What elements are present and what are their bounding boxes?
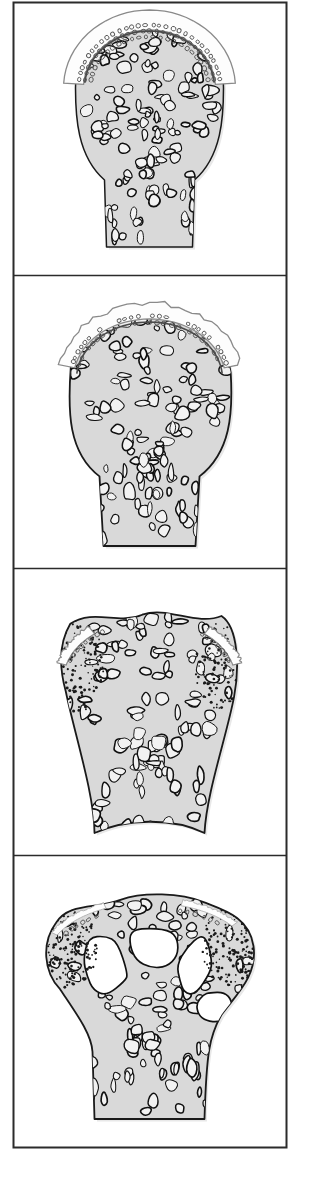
trabecula <box>140 44 148 50</box>
stipple-dot <box>68 689 71 692</box>
stipple-dot <box>96 948 98 950</box>
stipple-dot <box>236 965 238 967</box>
stipple-dot <box>68 981 70 983</box>
trabecula <box>102 782 110 798</box>
stipple-dot <box>62 972 64 974</box>
stipple-dot <box>205 947 207 949</box>
stipple-dot <box>242 966 244 968</box>
stipple-dot <box>98 639 100 641</box>
stipple-dot <box>241 956 244 959</box>
trabecula <box>194 397 209 402</box>
stipple-dot <box>211 673 214 676</box>
trabecula <box>191 723 201 736</box>
stipple-dot <box>206 953 208 955</box>
trabecula <box>104 87 115 93</box>
stipple-dot <box>58 962 61 965</box>
stipple-dot <box>244 954 247 957</box>
stipple-dot <box>244 971 247 974</box>
stipple-dot <box>74 941 77 944</box>
trabecula <box>85 659 98 664</box>
stipple-dot <box>66 686 69 689</box>
stipple-dot <box>231 928 233 930</box>
stipple-dot <box>52 946 55 949</box>
stipple-dot <box>99 680 102 683</box>
stipple-dot <box>210 690 213 693</box>
stipple-dot <box>76 626 79 629</box>
stipple-dot <box>80 664 82 666</box>
stipple-dot <box>94 952 96 954</box>
stipple-dot <box>49 961 51 963</box>
stipple-dot <box>212 956 214 958</box>
stipple-dot <box>225 911 227 913</box>
trabecula <box>153 990 166 1000</box>
stipple-dot <box>89 659 91 661</box>
trabecula <box>160 1068 164 1078</box>
trabecula <box>92 131 103 139</box>
stipple-dot <box>248 970 250 972</box>
stipple-dot <box>80 932 82 934</box>
stipple-dot <box>231 697 234 700</box>
stipple-dot <box>248 962 251 965</box>
stipple-dot <box>227 681 230 684</box>
trabecula <box>167 767 173 782</box>
stipple-dot <box>203 659 206 662</box>
stipple-dot <box>99 654 101 656</box>
stipple-dot <box>227 974 230 977</box>
stipple-dot <box>65 946 67 948</box>
stipple-dot <box>92 673 94 675</box>
stipple-dot <box>201 655 204 658</box>
trabecula <box>196 661 204 675</box>
stipple-dot <box>99 676 102 679</box>
stipple-dot <box>48 944 49 945</box>
stipple-dot <box>69 943 71 945</box>
trabecula <box>152 672 165 679</box>
stipple-dot <box>79 677 82 680</box>
stipple-dot <box>203 674 205 676</box>
stipple-dot <box>215 952 216 953</box>
trabecula <box>180 500 186 512</box>
stipple-dot <box>72 710 75 713</box>
stipple-dot <box>232 933 235 936</box>
stipple-dot <box>80 691 83 694</box>
stipple-dot <box>94 650 97 653</box>
stipple-dot <box>220 659 222 661</box>
trabecula <box>105 1003 111 1010</box>
stipple-dot <box>203 681 206 684</box>
stipple-dot <box>206 942 209 945</box>
trabecula <box>139 170 146 179</box>
stipple-dot <box>225 924 227 926</box>
stipple-dot <box>221 664 223 666</box>
stipple-dot <box>66 984 68 986</box>
trabecula <box>197 1087 201 1097</box>
trabecula <box>149 523 155 531</box>
stipple-dot <box>218 679 220 681</box>
stipple-dot <box>208 693 211 696</box>
stipple-dot <box>83 647 85 649</box>
stipple-dot <box>79 942 82 945</box>
stipple-dot <box>74 632 76 634</box>
stipple-dot <box>71 948 73 950</box>
trabecula <box>181 122 190 127</box>
trabecula <box>137 230 143 244</box>
stipple-dot <box>65 681 68 684</box>
trabecula <box>149 194 160 206</box>
stipple-dot <box>75 925 77 927</box>
trabecula <box>152 736 166 750</box>
stipple-dot <box>100 667 102 669</box>
stipple-dot <box>220 706 223 709</box>
trabecula <box>166 403 177 411</box>
stipple-dot <box>251 958 253 960</box>
stipple-dot <box>97 663 99 665</box>
stipple-dot <box>84 705 87 708</box>
stipple-dot <box>223 628 225 630</box>
stipple-dot <box>206 964 208 966</box>
trabecula <box>167 488 172 496</box>
stipple-dot <box>196 653 199 656</box>
stipple-dot <box>208 922 210 924</box>
trabecula <box>193 780 199 792</box>
trabecula <box>120 379 129 390</box>
stipple-dot <box>96 646 98 648</box>
stipple-dot <box>72 623 74 625</box>
stipple-dot <box>246 946 248 948</box>
stipple-dot <box>250 951 253 954</box>
